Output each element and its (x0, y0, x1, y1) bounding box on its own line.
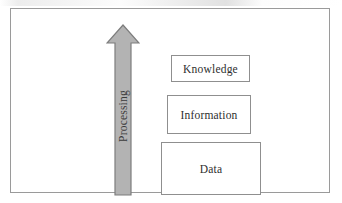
figure-frame: Processing Knowledge Information Data (10, 8, 330, 193)
concept-box-information: Information (167, 95, 251, 134)
processing-arrow-shape (106, 24, 140, 196)
concept-box-data-label: Data (200, 163, 223, 175)
concept-box-knowledge: Knowledge (171, 55, 250, 82)
processing-arrow: Processing (106, 24, 140, 196)
scan-artifact-strip (0, 0, 342, 6)
concept-box-information-label: Information (180, 109, 237, 121)
concept-box-data: Data (161, 142, 261, 195)
concept-box-knowledge-label: Knowledge (183, 63, 238, 75)
